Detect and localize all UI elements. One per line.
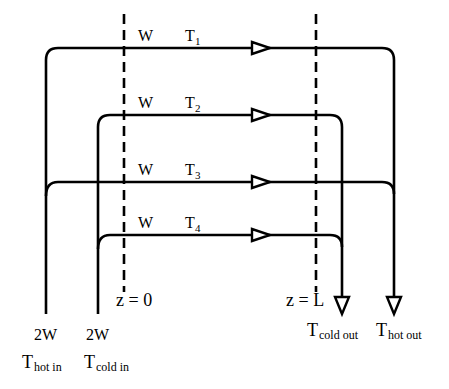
outlet-temp-subscript: hot out xyxy=(388,328,422,342)
temp-subscript: 1 xyxy=(195,35,201,47)
cold-stream-line-4 xyxy=(98,235,342,249)
flow-label: W xyxy=(138,27,154,44)
outlet-temp-label: T xyxy=(307,320,318,340)
boundary-label-zL: z = L xyxy=(286,290,324,310)
inlet-flow-label: 2W xyxy=(86,326,110,343)
cold-stream-line-2 xyxy=(98,115,342,314)
arrow-down-icon-hot-out xyxy=(387,297,401,314)
inlet-temp-subscript: hot in xyxy=(34,360,62,374)
temp-label: T xyxy=(185,161,195,178)
inlet-temp-subscript: cold in xyxy=(96,360,129,374)
heat-exchanger-diagram: W T 1 W T 2 W T 3 W T 4 z = 0 z = L 2W T… xyxy=(0,0,449,389)
inlet-cold: 2W T cold in xyxy=(84,326,129,374)
temp-subscript: 2 xyxy=(195,102,201,114)
boundary-label-z0: z = 0 xyxy=(116,290,152,310)
outlet-hot: T hot out xyxy=(376,320,422,342)
outlet-cold: T cold out xyxy=(307,320,359,342)
stream-label-2: W T 2 xyxy=(138,94,201,114)
inlet-hot: 2W T hot in xyxy=(22,326,62,374)
arrow-right-icon xyxy=(252,42,270,54)
temp-label: T xyxy=(185,94,195,111)
flow-label: W xyxy=(138,161,154,178)
stream-label-3: W T 3 xyxy=(138,161,201,181)
temp-subscript: 4 xyxy=(195,222,201,234)
inlet-temp-label: T xyxy=(84,352,95,372)
stream-label-4: W T 4 xyxy=(138,214,201,234)
flow-label: W xyxy=(138,214,154,231)
outlet-temp-subscript: cold out xyxy=(319,328,359,342)
inlet-flow-label: 2W xyxy=(34,326,58,343)
arrow-down-icon-cold-out xyxy=(335,297,349,314)
arrow-right-icon xyxy=(252,109,270,121)
temp-label: T xyxy=(185,27,195,44)
outlet-temp-label: T xyxy=(376,320,387,340)
temp-label: T xyxy=(185,214,195,231)
stream-label-1: W T 1 xyxy=(138,27,201,47)
temp-subscript: 3 xyxy=(195,169,201,181)
arrow-right-icon xyxy=(252,229,270,241)
arrow-right-icon xyxy=(252,176,270,188)
flow-label: W xyxy=(138,94,154,111)
inlet-temp-label: T xyxy=(22,352,33,372)
